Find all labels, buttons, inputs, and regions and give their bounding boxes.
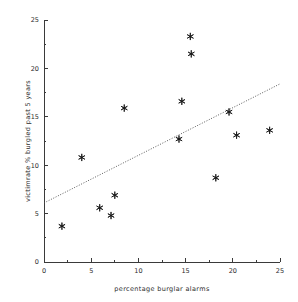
data-point xyxy=(266,127,272,134)
y-tick-label: 25 xyxy=(31,16,39,24)
x-axis-label: percentage burglar alarms xyxy=(114,285,210,293)
data-point xyxy=(188,50,194,57)
x-tick-label: 15 xyxy=(181,267,189,275)
y-tick-label: 20 xyxy=(31,65,39,73)
data-point xyxy=(79,154,85,161)
data-point xyxy=(233,132,239,139)
x-tick-label: 0 xyxy=(42,267,46,275)
data-point xyxy=(179,98,185,105)
x-tick-label: 25 xyxy=(276,267,284,275)
data-point xyxy=(187,33,193,40)
x-tick-label: 20 xyxy=(229,267,237,275)
data-point xyxy=(97,204,103,211)
data-point xyxy=(59,223,65,230)
y-axis-label: victimrate % burgled past 5 years xyxy=(24,80,32,202)
data-point xyxy=(213,174,219,181)
data-point xyxy=(121,104,127,111)
data-point xyxy=(108,212,114,219)
axes xyxy=(44,20,280,262)
data-point xyxy=(112,192,118,199)
axis-spines xyxy=(44,20,280,262)
axis-tick-labels: 05101520250510152025 xyxy=(31,16,284,275)
regression-line xyxy=(44,84,280,203)
x-tick-label: 10 xyxy=(134,267,142,275)
y-tick-label: 5 xyxy=(35,210,39,218)
y-tick-label: 0 xyxy=(35,258,39,266)
data-point xyxy=(226,108,232,115)
x-tick-label: 5 xyxy=(89,267,93,275)
data-points xyxy=(59,33,273,230)
trend-line xyxy=(44,84,280,203)
plot-canvas: 05101520250510152025 percentage burglar … xyxy=(0,0,298,302)
data-point xyxy=(176,135,182,142)
axis-ticks xyxy=(44,20,280,262)
scatter-plot-figure: 05101520250510152025 percentage burglar … xyxy=(0,0,298,302)
